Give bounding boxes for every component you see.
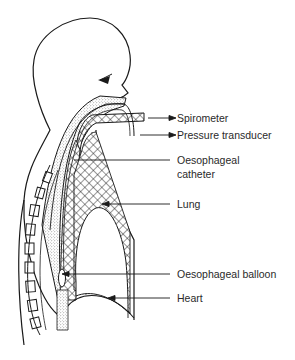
label-heart: Heart bbox=[177, 292, 203, 304]
anatomy-diagram bbox=[0, 0, 295, 360]
arrow-icon bbox=[169, 133, 176, 138]
eye-icon bbox=[98, 76, 110, 84]
label-oesophageal-catheter-2: catheter bbox=[177, 168, 215, 180]
label-spirometer: Spirometer bbox=[177, 112, 228, 124]
oesophageal-balloon bbox=[59, 269, 66, 287]
arrow-icon bbox=[169, 116, 176, 121]
label-pressure-transducer: Pressure transducer bbox=[177, 129, 272, 141]
label-oesophageal-catheter: Oesophageal bbox=[177, 154, 239, 166]
label-oesophageal-balloon: Oesophageal balloon bbox=[177, 268, 276, 280]
label-lung: Lung bbox=[177, 198, 200, 210]
oesophagus bbox=[57, 290, 68, 330]
